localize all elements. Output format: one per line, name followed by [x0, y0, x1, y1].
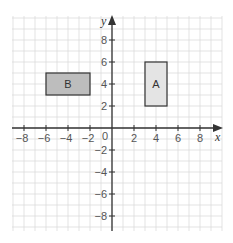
x-tick-label: −8 [16, 132, 29, 144]
y-tick-label: 8 [101, 34, 107, 46]
y-tick-label: −8 [94, 210, 107, 222]
x-tick-label: 6 [175, 132, 181, 144]
y-tick-label: −6 [94, 188, 107, 200]
coordinate-plane: AB x y 0 −8−6−4−224688642−2−4−6−8 [0, 0, 233, 243]
x-axis-label: x [214, 130, 221, 144]
y-tick-label: 4 [101, 78, 107, 90]
y-axis-arrow-icon [108, 15, 116, 25]
rectangle-label: B [64, 78, 71, 90]
y-tick-label: −4 [94, 166, 107, 178]
y-tick-label: −2 [94, 144, 107, 156]
axes: x y 0 [12, 14, 223, 231]
x-tick-label: −6 [38, 132, 51, 144]
x-tick-label: 8 [197, 132, 203, 144]
x-tick-label: 4 [153, 132, 159, 144]
y-axis-label: y [100, 14, 107, 28]
rectangle-a: A [145, 62, 167, 106]
x-tick-label: −4 [60, 132, 73, 144]
x-tick-label: 2 [131, 132, 137, 144]
y-tick-label: 6 [101, 56, 107, 68]
rectangle-label: A [152, 78, 160, 90]
x-tick-label: −2 [82, 132, 95, 144]
origin-label: 0 [102, 130, 108, 142]
grid-lines [12, 16, 222, 231]
y-tick-label: 2 [101, 100, 107, 112]
rectangle-b: B [46, 73, 90, 95]
